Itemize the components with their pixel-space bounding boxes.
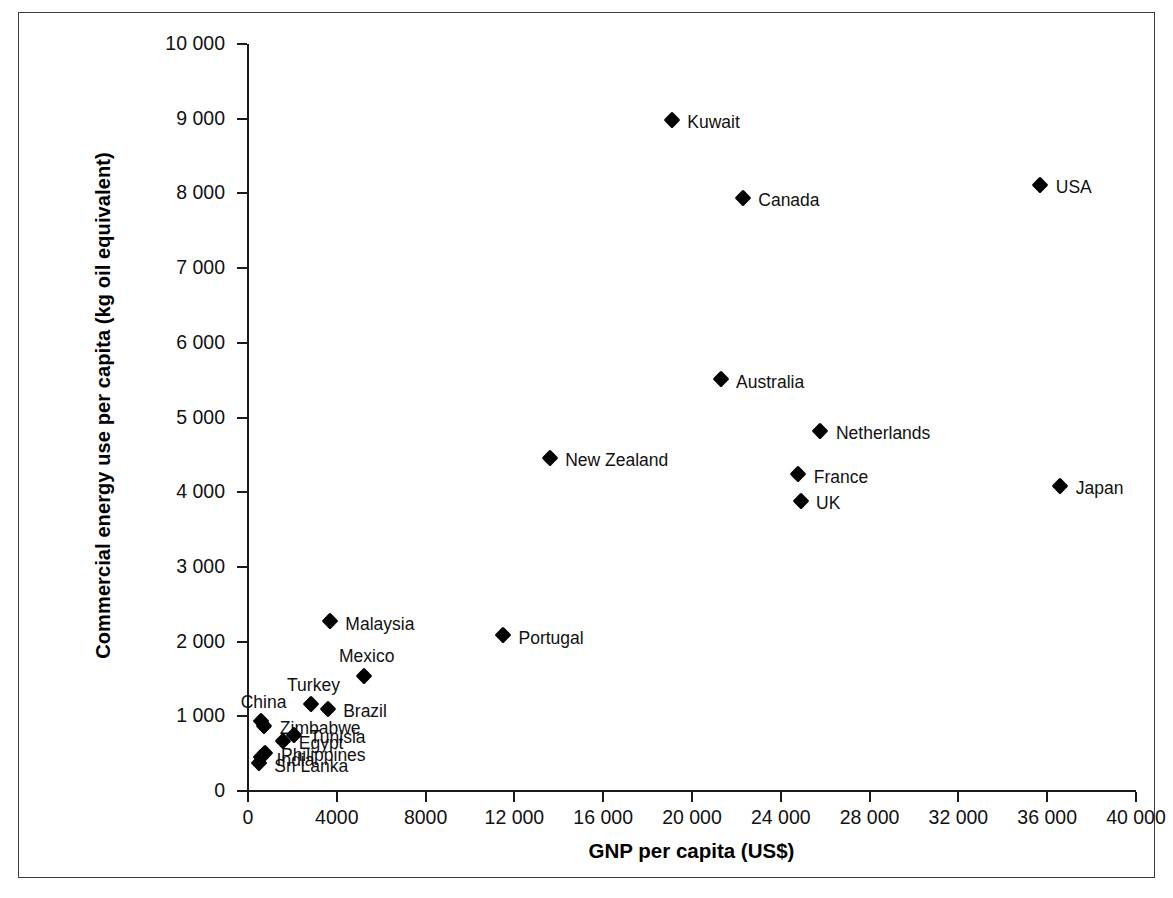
x-tick (1135, 792, 1137, 802)
point-label: Australia (736, 374, 804, 392)
diamond-marker (495, 627, 512, 644)
y-tick (237, 417, 247, 419)
diamond-marker (321, 613, 338, 630)
diamond-marker (302, 696, 319, 713)
diamond-marker (663, 111, 680, 128)
y-tick-label: 6 000 (107, 333, 225, 353)
y-tick (237, 192, 247, 194)
y-tick-label: 10 000 (107, 34, 225, 54)
point-label: Turkey (287, 677, 340, 695)
scatter-plot: 01 0002 0003 0004 0005 0006 0007 0008 00… (19, 13, 1156, 879)
point-label: Netherlands (836, 425, 930, 443)
diamond-marker (712, 371, 729, 388)
y-tick (237, 342, 247, 344)
y-tick-label: 8 000 (107, 183, 225, 203)
x-tick (691, 792, 693, 802)
y-tick (237, 118, 247, 120)
point-label: Malaysia (345, 616, 414, 634)
y-tick (237, 43, 247, 45)
y-tick-label: 0 (107, 781, 225, 801)
y-tick (237, 491, 247, 493)
point-label: New Zealand (565, 452, 668, 470)
x-tick-label: 40 000 (1071, 808, 1173, 828)
y-tick (237, 790, 247, 792)
diamond-marker (792, 492, 809, 509)
y-tick-label: 3 000 (107, 557, 225, 577)
y-axis-line (247, 44, 249, 791)
y-tick (237, 715, 247, 717)
x-tick (513, 792, 515, 802)
x-tick (247, 792, 249, 802)
diamond-marker (1032, 176, 1049, 193)
diamond-marker (790, 466, 807, 483)
point-label: France (814, 469, 868, 487)
point-label: Mexico (339, 648, 394, 666)
y-tick (237, 641, 247, 643)
point-label: Portugal (519, 630, 584, 648)
point-label: Japan (1076, 480, 1124, 498)
x-tick (957, 792, 959, 802)
diamond-marker (541, 449, 558, 466)
y-tick-label: 9 000 (107, 109, 225, 129)
x-tick (869, 792, 871, 802)
x-tick (336, 792, 338, 802)
x-tick (1046, 792, 1048, 802)
diamond-marker (812, 422, 829, 439)
diamond-marker (1052, 477, 1069, 494)
diamond-marker (356, 667, 373, 684)
y-tick-label: 4 000 (107, 482, 225, 502)
y-tick-label: 2 000 (107, 632, 225, 652)
x-axis-title: GNP per capita (US$) (247, 839, 1136, 863)
point-label: Sri Lanka (274, 758, 348, 776)
figure-frame: 01 0002 0003 0004 0005 0006 0007 0008 00… (18, 12, 1155, 878)
y-tick (237, 267, 247, 269)
diamond-marker (319, 700, 336, 717)
x-tick (425, 792, 427, 802)
y-tick-label: 1 000 (107, 706, 225, 726)
y-tick (237, 566, 247, 568)
x-tick (780, 792, 782, 802)
point-label: Kuwait (687, 114, 740, 132)
point-label: Canada (758, 192, 819, 210)
point-label: China (241, 694, 287, 712)
x-tick (602, 792, 604, 802)
point-label: UK (816, 495, 840, 513)
y-axis-title: Commercial energy use per capita (kg oil… (92, 86, 115, 726)
point-label: USA (1056, 179, 1092, 197)
y-tick-label: 7 000 (107, 258, 225, 278)
y-tick-label: 5 000 (107, 408, 225, 428)
diamond-marker (734, 189, 751, 206)
